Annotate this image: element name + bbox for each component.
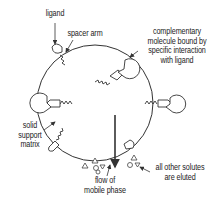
eluted-label: all other solutes are eluted <box>146 163 214 182</box>
flow-line-1: flow of <box>79 176 132 186</box>
eluted-line-2: are eluted <box>150 173 210 183</box>
complementary-label: complementary molecule bound by specific… <box>140 27 214 65</box>
bound-complex-left <box>30 93 72 113</box>
bound-complex-upper-right <box>95 59 140 85</box>
support-line-3: matrix <box>12 140 47 150</box>
spacer-arm-label: spacer arm <box>63 29 107 39</box>
bound-complex-right <box>145 95 186 113</box>
solutes-group <box>82 155 140 174</box>
ligand-free-lower-left <box>49 128 64 151</box>
complementary-line-2: molecule bound by <box>144 37 209 47</box>
complementary-leader <box>130 51 138 57</box>
support-line-2: support <box>12 131 47 141</box>
eluted-line-1: all other solutes <box>150 163 210 173</box>
ligand-free-lower-right <box>124 140 134 149</box>
ligand-label: ligand <box>42 9 68 19</box>
complementary-line-4: with ligand <box>144 56 209 66</box>
support-label: solid support matrix <box>10 121 50 150</box>
flow-leader <box>107 165 110 176</box>
complementary-line-1: complementary <box>144 27 209 37</box>
support-line-1: solid <box>12 121 47 131</box>
flow-label: flow of mobile phase <box>75 176 135 195</box>
complementary-line-3: specific interaction <box>144 46 209 56</box>
flow-line-2: mobile phase <box>79 186 132 196</box>
